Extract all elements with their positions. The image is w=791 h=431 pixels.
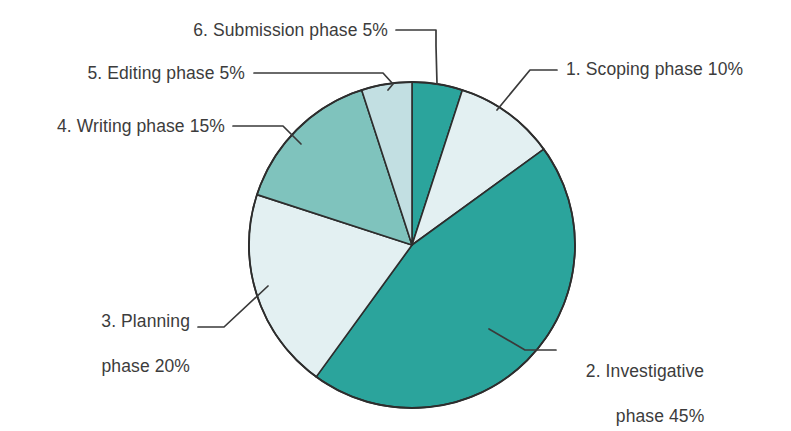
slice-label-writing: 4. Writing phase 15% — [20, 115, 225, 137]
slice-label-investigative-line2: phase 45% — [586, 405, 704, 427]
leader-line-scoping — [497, 70, 557, 110]
slice-label-scoping: 1. Scoping phase 10% — [566, 58, 791, 80]
slice-label-investigative-line1: 2. Investigative — [586, 361, 704, 381]
pie-chart-figure: 6. Submission phase 5% 5. Editing phase … — [0, 0, 791, 431]
slice-label-planning-line1: 3. Planning — [101, 311, 190, 331]
leader-line-submission — [396, 30, 437, 84]
slice-label-planning: 3. Planning phase 20% — [10, 288, 190, 400]
slice-label-planning-line2: phase 20% — [102, 356, 190, 376]
pie-slices-group — [249, 82, 575, 408]
slice-label-submission: 6. Submission phase 5% — [150, 19, 388, 41]
slice-label-editing: 5. Editing phase 5% — [40, 62, 245, 84]
slice-label-investigative: 2. Investigative phase 45% — [566, 338, 791, 431]
